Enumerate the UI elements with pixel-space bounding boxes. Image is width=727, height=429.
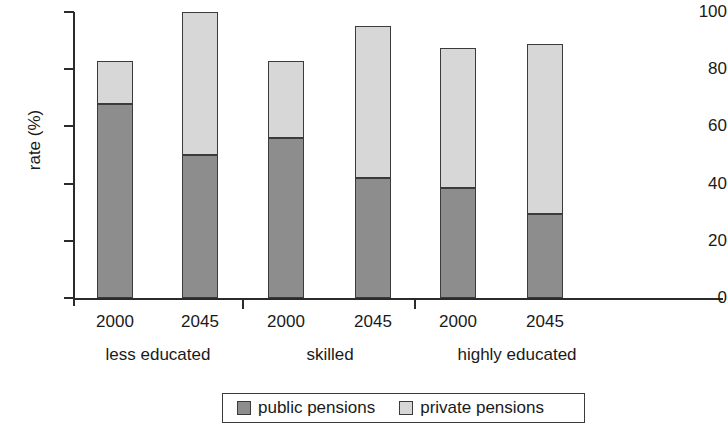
bar-segment-public-pensions: [527, 214, 563, 298]
y-axis-tick-label: 0: [669, 289, 727, 306]
legend-swatch-public-icon: [237, 401, 251, 415]
y-axis-tick-label: 60: [669, 117, 727, 134]
y-axis-tick-label: 40: [669, 175, 727, 192]
bar-segment-public-pensions: [182, 155, 218, 298]
x-axis-group-label: highly educated: [407, 345, 627, 365]
legend-swatch-private-icon: [399, 401, 413, 415]
bar-highly-educated-2000: [440, 48, 476, 298]
bar-segment-public-pensions: [440, 188, 476, 298]
bar-segment-private-pensions: [527, 44, 563, 213]
y-axis-tick: [64, 297, 74, 299]
bar-segment-private-pensions: [268, 61, 304, 138]
bar-skilled-2000: [268, 61, 304, 298]
bar-less-educated-2000: [97, 61, 133, 298]
legend: public pensions private pensions: [222, 393, 585, 423]
y-axis-line: [73, 12, 75, 299]
x-axis-group-separator: [242, 300, 244, 309]
x-axis-tick-label: 2045: [155, 312, 245, 332]
bar-segment-private-pensions: [182, 12, 218, 155]
y-axis-tick-label: 100: [669, 3, 727, 20]
bar-less-educated-2045: [182, 12, 218, 298]
bar-segment-private-pensions: [355, 26, 391, 178]
legend-item-public-pensions: public pensions: [237, 398, 375, 418]
x-axis-origin-tick: [73, 294, 75, 306]
y-axis-tick: [64, 183, 74, 185]
x-axis-line: [73, 298, 723, 300]
bar-segment-public-pensions: [268, 138, 304, 298]
x-axis-tick-label: 2000: [413, 312, 503, 332]
x-axis-tick-label: 2000: [241, 312, 331, 332]
y-axis-label: rate (%): [25, 60, 45, 220]
legend-label-public: public pensions: [258, 398, 375, 418]
bar-skilled-2045: [355, 26, 391, 298]
y-axis-tick-label: 80: [669, 60, 727, 77]
x-axis-tick-label: 2000: [70, 312, 160, 332]
y-axis-tick: [64, 68, 74, 70]
y-axis-tick: [64, 240, 74, 242]
x-axis-group-separator: [414, 300, 416, 309]
x-axis-tick-label: 2045: [500, 312, 590, 332]
bar-segment-private-pensions: [440, 48, 476, 188]
y-axis-tick: [64, 125, 74, 127]
bar-segment-public-pensions: [355, 178, 391, 298]
bar-segment-private-pensions: [97, 61, 133, 104]
y-axis-tick-label: 20: [669, 232, 727, 249]
y-axis-tick: [64, 11, 74, 13]
legend-label-private: private pensions: [420, 398, 544, 418]
bar-segment-public-pensions: [97, 104, 133, 298]
x-axis-tick-label: 2045: [328, 312, 418, 332]
bar-highly-educated-2045: [527, 44, 563, 298]
legend-item-private-pensions: private pensions: [399, 398, 544, 418]
stacked-bar-chart: rate (%) 100806040200 200020452000204520…: [0, 0, 727, 429]
